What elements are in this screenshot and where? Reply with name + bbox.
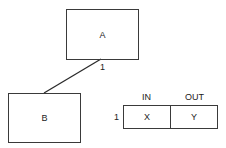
edge-multiplicity-label: 1 [100,63,105,72]
table-row-label: 1 [114,113,119,122]
table-header-out: OUT [185,93,204,102]
table-cell-out: Y [170,106,217,128]
table-cell-out-value: Y [191,112,197,122]
node-b: B [8,93,81,143]
io-table: X Y [123,105,218,129]
node-a-label: A [99,30,105,40]
node-a: A [66,9,139,60]
table-cell-in-value: X [144,112,150,122]
node-b-label: B [41,113,47,123]
table-cell-in: X [124,106,170,128]
table-header-in: IN [142,93,151,102]
